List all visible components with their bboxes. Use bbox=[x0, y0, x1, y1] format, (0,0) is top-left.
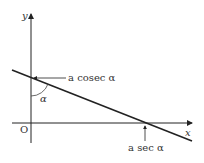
y-intercept-label: a cosec α bbox=[68, 72, 116, 83]
x-axis-label: x bbox=[185, 127, 191, 138]
coordinate-diagram: y x O α a cosec α a sec α bbox=[0, 0, 204, 163]
angle-label: α bbox=[40, 93, 47, 104]
y-axis-label: y bbox=[21, 10, 28, 21]
origin-label: O bbox=[20, 124, 28, 135]
x-intercept-label: a sec α bbox=[128, 142, 164, 153]
